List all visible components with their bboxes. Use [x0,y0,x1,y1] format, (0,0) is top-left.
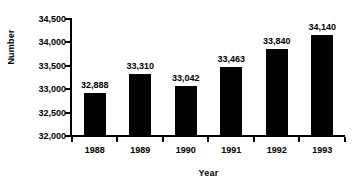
bar-value-label: 33,042 [172,74,200,83]
y-tick-label: 32,500 [22,109,66,118]
x-tick-mark [71,137,73,142]
x-tick-mark [253,137,255,142]
x-tick-label: 1992 [254,146,300,155]
bar[interactable] [220,67,242,135]
y-axis-tick-labels: 34,500 34,000 33,500 33,000 32,500 32,00… [20,0,66,189]
bar-value-label: 33,310 [126,62,154,71]
x-axis-title: Year [72,168,345,178]
bar-group: 33,463 [209,18,255,135]
bar-group: 33,042 [163,18,209,135]
x-tick-mark [207,137,209,142]
bar-group: 32,888 [72,18,118,135]
bar-chart: Number 34,500 34,000 33,500 33,000 32,50… [0,0,355,189]
x-tick-mark [162,137,164,142]
x-tick-mark [298,137,300,142]
x-tick-label: 1991 [209,146,255,155]
bar-value-label: 33,463 [217,55,245,64]
y-tick-mark [65,41,71,43]
bar[interactable] [129,74,151,135]
bar[interactable] [266,49,288,135]
bar-value-label: 32,888 [81,81,109,90]
bar[interactable] [311,35,333,135]
bar[interactable] [175,86,197,135]
bar-value-label: 34,140 [308,23,336,32]
x-tick-label: 1990 [163,146,209,155]
x-tick-label: 1989 [118,146,164,155]
bar-group: 34,140 [300,18,346,135]
y-tick-label: 33,500 [22,62,66,71]
x-tick-mark [344,137,346,142]
x-tick-label: 1988 [72,146,118,155]
bar-group: 33,840 [254,18,300,135]
bar-group: 33,310 [118,18,164,135]
x-tick-label: 1993 [300,146,346,155]
y-tick-label: 34,000 [22,38,66,47]
bar-value-label: 33,840 [263,37,291,46]
bar[interactable] [84,93,106,135]
y-tick-label: 34,500 [22,15,66,24]
y-tick-mark [65,18,71,20]
y-tick-label: 32,000 [22,132,66,141]
y-tick-mark [65,112,71,114]
y-tick-mark [65,65,71,67]
x-tick-mark [116,137,118,142]
y-tick-label: 33,000 [22,85,66,94]
plot-area: 32,888 33,310 33,042 33,463 33,840 34,14… [72,18,345,135]
y-axis-title: Number [6,12,16,82]
y-tick-mark [65,88,71,90]
